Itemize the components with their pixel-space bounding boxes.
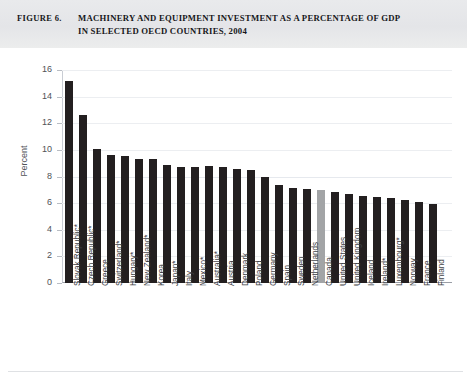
category-label: Denmark xyxy=(241,253,250,286)
y-tick-label: 10 xyxy=(26,144,52,154)
y-tick-label: 4 xyxy=(26,224,52,234)
y-tick-label: 2 xyxy=(26,250,52,260)
figure-title-line-2: IN SELECTED OECD COUNTRIES, 2004 xyxy=(78,25,453,38)
category-label: United Kingdom xyxy=(353,228,362,286)
category-label: Canada xyxy=(325,257,334,286)
category-label: Hungary* xyxy=(129,252,138,286)
category-label: Austria xyxy=(227,261,236,286)
figure-number-label: FIGURE 6. xyxy=(17,13,62,23)
category-label: Ireland* xyxy=(381,258,390,286)
figure-title: MACHINERY AND EQUIPMENT INVESTMENT AS A … xyxy=(78,12,453,37)
y-tick-mark xyxy=(57,283,62,284)
category-label: Spain xyxy=(283,265,292,286)
category-label: Germany xyxy=(269,252,278,286)
category-label: Greece xyxy=(101,259,110,286)
y-tick-label: 8 xyxy=(26,171,52,181)
y-tick-label: 16 xyxy=(26,64,52,74)
category-label: Norway xyxy=(409,258,418,286)
y-tick-label: 12 xyxy=(26,117,52,127)
category-label: France xyxy=(423,261,432,286)
bar xyxy=(191,167,199,283)
category-label: Finland xyxy=(437,259,446,286)
category-labels: Slovak Republic*Czech Republic*GreeceSwi… xyxy=(62,286,462,382)
bar xyxy=(65,81,73,283)
category-label: Czech Republic* xyxy=(87,225,96,286)
category-label: Italy xyxy=(185,271,194,286)
chart-area: 0246810121416 Percent Slovak Republic*Cz… xyxy=(0,48,467,384)
category-label: Slovak Republic* xyxy=(73,224,82,286)
category-label: Netherlands xyxy=(311,242,320,286)
category-label: United States xyxy=(339,237,348,286)
category-label: Mexico* xyxy=(199,257,208,286)
category-label: New Zealand* xyxy=(143,235,152,286)
category-label: Japan* xyxy=(171,261,180,287)
y-tick-label: 14 xyxy=(26,91,52,101)
category-label: Luxembourg* xyxy=(395,237,404,286)
figure-title-line-1: MACHINERY AND EQUIPMENT INVESTMENT AS A … xyxy=(78,12,453,25)
category-label: Australia* xyxy=(213,251,222,286)
category-label: Iceland xyxy=(367,260,376,286)
category-label: Korea xyxy=(157,264,166,286)
y-axis-title: Percent xyxy=(19,121,29,201)
y-tick-label: 6 xyxy=(26,197,52,207)
category-label: Sweden xyxy=(297,256,306,286)
y-tick-label: 0 xyxy=(26,277,52,287)
page-bottom-edge xyxy=(8,371,463,372)
category-label: Switzerland* xyxy=(115,240,124,286)
category-label: Poland xyxy=(255,261,264,287)
